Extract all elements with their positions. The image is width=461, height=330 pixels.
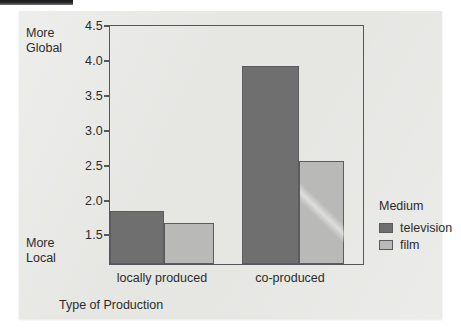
bar-locally-produced-film — [164, 223, 214, 264]
chart-screenshot: 4.5 4.0 3.5 3.0 2.5 2.0 1.5 More Global … — [0, 0, 461, 330]
bar-locally-produced-television — [110, 211, 164, 264]
x-axis-title: Type of Production — [59, 299, 163, 312]
legend: Medium television film — [379, 200, 459, 257]
y-axis-anchor-high-line1: More — [26, 26, 88, 41]
bar-co-produced-film — [299, 161, 344, 264]
y-axis-anchor-high-line2: Global — [26, 41, 88, 56]
legend-label-film: film — [400, 239, 419, 252]
legend-item-television: television — [379, 222, 459, 235]
y-tick-label-2-0: 2.0 — [59, 195, 103, 208]
legend-label-television: television — [400, 222, 452, 235]
y-tick-label-3-0: 3.0 — [59, 125, 103, 138]
y-axis-anchor-low: More Local — [26, 236, 88, 266]
y-axis-anchor-low-line2: Local — [26, 251, 88, 266]
legend-swatch-television-icon — [379, 223, 393, 233]
y-axis-anchor-low-line1: More — [26, 236, 88, 251]
y-tick-label-4-0: 4.0 — [59, 55, 103, 68]
legend-item-film: film — [379, 239, 459, 252]
y-tick-label-3-5: 3.5 — [59, 90, 103, 103]
y-axis-anchor-high: More Global — [26, 26, 88, 56]
legend-swatch-film-icon — [379, 240, 393, 250]
legend-title: Medium — [379, 200, 459, 213]
y-tick-label-2-5: 2.5 — [59, 160, 103, 173]
bar-co-produced-television — [242, 66, 299, 264]
x-category-label-co-produced: co-produced — [215, 272, 365, 285]
